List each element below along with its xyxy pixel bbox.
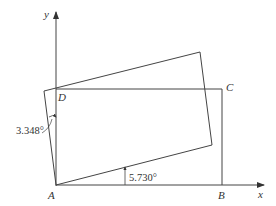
angle-label-bottom: 5.730° — [129, 172, 157, 183]
angle-label-left: 3.348° — [16, 125, 44, 136]
diagram: y x A B C D 3.348° 5.730° — [0, 0, 276, 206]
rotated-square-diagram: y x A B C D 3.348° 5.730° — [0, 0, 276, 206]
square-abcd — [56, 89, 222, 185]
rotated-square — [44, 52, 212, 185]
point-a-label: A — [47, 189, 55, 201]
point-b-label: B — [218, 189, 225, 201]
point-c-label: C — [226, 81, 234, 93]
angle-arc-left — [49, 116, 56, 118]
y-axis-label: y — [43, 8, 49, 20]
x-axis-label: x — [257, 188, 263, 200]
point-d-label: D — [57, 91, 66, 103]
